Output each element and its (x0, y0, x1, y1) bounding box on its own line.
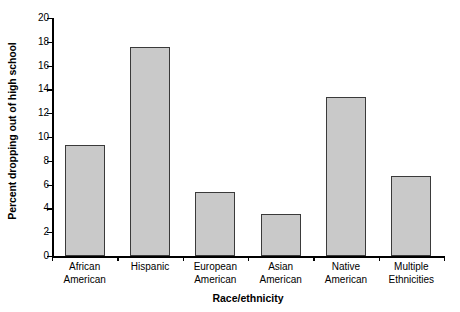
y-axis-tick-label: 18 (38, 37, 49, 47)
x-axis-category-label-line: American (52, 274, 117, 287)
x-axis-category-label-line: European (183, 261, 248, 274)
bar (65, 145, 105, 256)
bar (261, 214, 301, 256)
x-axis-title-text: Race/ethnicity (212, 292, 283, 304)
y-axis-title-text: Percent dropping out of high school (6, 42, 18, 219)
x-axis-category-label-line: Hispanic (117, 261, 182, 274)
x-axis-category-label-line: American (248, 274, 313, 287)
bar (326, 97, 366, 256)
y-axis-title: Percent dropping out of high school (0, 0, 24, 262)
y-axis-tick-label: 20 (38, 13, 49, 23)
y-axis-line (52, 18, 54, 256)
y-axis-tick-label: 14 (38, 84, 49, 94)
x-axis-category-labels: AfricanAmericanHispanicEuropeanAmericanA… (52, 261, 444, 293)
y-axis-tick-label: 10 (38, 132, 49, 142)
bar (130, 47, 170, 256)
y-axis-tick-label: 12 (38, 108, 49, 118)
y-axis-tick-label: 4 (43, 203, 49, 213)
x-axis-category-label-line: Ethnicities (379, 274, 444, 287)
x-axis-title: Race/ethnicity (52, 292, 444, 304)
x-axis-category-label-line: Multiple (379, 261, 444, 274)
y-axis-tick-label: 2 (43, 227, 49, 237)
x-axis-category-label: AfricanAmerican (52, 261, 117, 286)
x-axis-tick-mark (444, 256, 445, 261)
x-axis-category-label: EuropeanAmerican (183, 261, 248, 286)
y-axis-tick-label: 0 (43, 251, 49, 261)
x-axis-category-label: NativeAmerican (313, 261, 378, 286)
y-axis-tick-label: 6 (43, 180, 49, 190)
x-axis-category-label: Hispanic (117, 261, 182, 274)
x-axis-category-label-line: African (52, 261, 117, 274)
bar-chart-figure: Percent dropping out of high school 0246… (0, 0, 460, 312)
x-axis-category-label-line: Asian (248, 261, 313, 274)
x-axis-category-label-line: American (183, 274, 248, 287)
y-axis-tick-label: 16 (38, 61, 49, 71)
x-axis-category-label: MultipleEthnicities (379, 261, 444, 286)
x-axis-category-label-line: Native (313, 261, 378, 274)
x-axis-category-label-line: American (313, 274, 378, 287)
plot-area: 02468101214161820 (52, 18, 444, 256)
y-axis-tick-label: 8 (43, 156, 49, 166)
bar (391, 176, 431, 256)
x-axis-category-label: AsianAmerican (248, 261, 313, 286)
bar (195, 192, 235, 256)
